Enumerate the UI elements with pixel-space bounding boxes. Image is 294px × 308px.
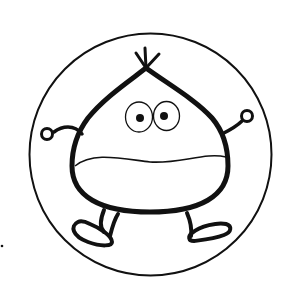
stray-dot xyxy=(1,245,4,248)
right-eye-icon xyxy=(154,102,180,131)
chestnut-body xyxy=(72,68,228,212)
right-arm-icon xyxy=(222,111,253,135)
stem-tuft-icon xyxy=(136,48,159,68)
illustration-canvas: Line drawing of a smiling chestnut chara… xyxy=(0,0,294,308)
right-foot xyxy=(189,223,230,241)
chestnut-character-drawing xyxy=(0,0,294,308)
mouth-line xyxy=(75,156,226,166)
left-leg-icon xyxy=(73,210,118,245)
left-foot xyxy=(73,221,112,245)
right-leg-icon xyxy=(187,213,230,241)
left-eye-icon xyxy=(126,102,153,132)
